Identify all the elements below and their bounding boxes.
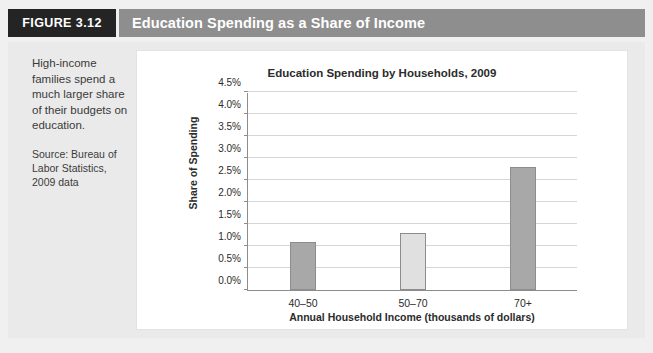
x-tick-label: 70+ bbox=[514, 297, 532, 309]
x-axis-title: Annual Household Income (thousands of do… bbox=[247, 311, 577, 323]
caption-source-text: Source: Bureau of Labor Statistics, 2009… bbox=[32, 147, 128, 189]
figure-title: Education Spending as a Share of Income bbox=[132, 15, 425, 31]
y-tick-mark bbox=[244, 223, 248, 224]
bar-1 bbox=[290, 242, 316, 290]
y-tick-label: 4.0% bbox=[218, 98, 241, 109]
y-tick-mark bbox=[244, 289, 248, 290]
gridline bbox=[248, 135, 577, 136]
figure-badge-number: 3.12 bbox=[76, 16, 102, 30]
y-tick-label: 2.5% bbox=[218, 164, 241, 175]
gridline bbox=[248, 157, 577, 158]
caption-column: High-income families spend a much larger… bbox=[32, 56, 128, 189]
y-tick-label: 4.5% bbox=[218, 76, 241, 87]
y-tick-mark bbox=[244, 157, 248, 158]
y-tick-label: 0.5% bbox=[218, 252, 241, 263]
x-tick-label: 40–50 bbox=[288, 297, 317, 309]
gridline bbox=[248, 91, 577, 92]
figure-number-badge: FIGURE 3.12 bbox=[8, 9, 116, 37]
y-tick-label: 1.5% bbox=[218, 208, 241, 219]
y-tick-label: 2.0% bbox=[218, 186, 241, 197]
y-tick-label: 3.0% bbox=[218, 142, 241, 153]
plot-wrapper: Share of Spending 0.0%0.5%1.0%1.5%2.0%2.… bbox=[137, 51, 627, 329]
caption-text: High-income families spend a much larger… bbox=[32, 56, 128, 134]
figure-badge-word: FIGURE bbox=[22, 16, 72, 30]
y-tick-mark bbox=[244, 201, 248, 202]
figure-container: FIGURE 3.12 Education Spending as a Shar… bbox=[0, 0, 653, 353]
x-tick-label: 50–70 bbox=[398, 297, 427, 309]
figure-body: High-income families spend a much larger… bbox=[8, 42, 645, 338]
y-tick-mark bbox=[244, 91, 248, 92]
figure-header: FIGURE 3.12 Education Spending as a Shar… bbox=[8, 9, 645, 37]
y-axis-title: Share of Spending bbox=[187, 103, 199, 223]
y-tick-mark bbox=[244, 135, 248, 136]
y-tick-mark bbox=[244, 267, 248, 268]
bar-3 bbox=[510, 167, 536, 290]
plot-area: 0.0%0.5%1.0%1.5%2.0%2.5%3.0%3.5%4.0%4.5%… bbox=[247, 93, 577, 291]
y-tick-mark bbox=[244, 245, 248, 246]
y-tick-label: 1.0% bbox=[218, 230, 241, 241]
y-tick-label: 3.5% bbox=[218, 120, 241, 131]
y-tick-mark bbox=[244, 179, 248, 180]
chart-panel: Education Spending by Households, 2009 S… bbox=[136, 50, 628, 330]
gridline bbox=[248, 113, 577, 114]
y-tick-mark bbox=[244, 113, 248, 114]
y-tick-label: 0.0% bbox=[218, 274, 241, 285]
bar-2 bbox=[400, 233, 426, 290]
figure-title-bar: Education Spending as a Share of Income bbox=[116, 9, 645, 37]
